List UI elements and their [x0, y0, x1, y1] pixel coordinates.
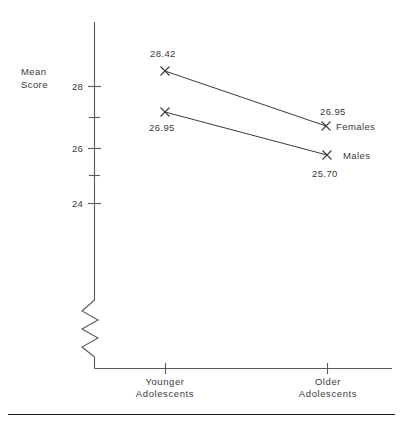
y-tick-label-26: 26 [72, 143, 83, 154]
y-axis-break-zigzag [82, 300, 98, 357]
y-axis-title-line2: Score [21, 79, 48, 90]
category-label-older-line2: Adolescents [299, 388, 357, 399]
marker-males-older [323, 151, 332, 160]
y-axis-title-line1: Mean [21, 66, 46, 77]
footer-divider [8, 414, 395, 415]
value-label-females-older: 26.95 [320, 106, 346, 117]
category-label-younger-line1: Younger [145, 376, 184, 387]
marker-females-older [322, 122, 331, 131]
line-chart-svg: Mean Score 28 26 24 28.42 26.95 26.95 25… [0, 0, 403, 425]
value-label-females-younger: 28.42 [150, 48, 176, 59]
value-label-males-older: 25.70 [312, 168, 338, 179]
series-line-females [165, 71, 326, 126]
category-label-younger-line2: Adolescents [136, 388, 194, 399]
category-label-older-line1: Older [315, 376, 341, 387]
series-label-males: Males [343, 150, 370, 161]
value-label-males-younger: 26.95 [149, 122, 175, 133]
series-label-females: Females [336, 121, 375, 132]
y-tick-label-28: 28 [72, 81, 83, 92]
marker-males-younger [161, 108, 170, 117]
figure-container: Mean Score 28 26 24 28.42 26.95 26.95 25… [0, 0, 403, 425]
y-tick-label-24: 24 [72, 198, 83, 209]
marker-females-younger [161, 67, 170, 76]
